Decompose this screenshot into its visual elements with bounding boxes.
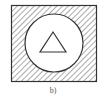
- figure-caption: b): [0, 86, 106, 95]
- diagram-figure: b): [0, 0, 106, 103]
- inner-circle: [25, 14, 83, 72]
